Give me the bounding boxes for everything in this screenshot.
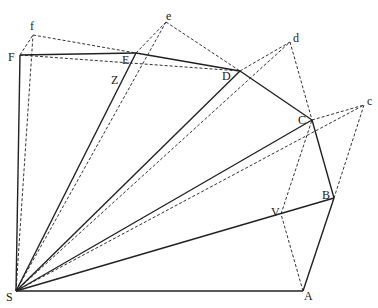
- dashed-segment-dC: [290, 42, 312, 120]
- solid-segment-BC: [312, 120, 334, 198]
- point-label-A: A: [304, 290, 313, 302]
- point-label-B: B: [322, 189, 330, 201]
- dashed-segment-AV: [281, 214, 303, 291]
- point-label-V: V: [271, 206, 280, 218]
- dashed-segment-eD: [166, 22, 240, 71]
- point-label-c: c: [367, 95, 372, 107]
- point-label-D: D: [222, 70, 231, 82]
- solid-segment-SE: [16, 53, 136, 291]
- point-label-d: d: [293, 32, 299, 44]
- solid-segment-AB: [303, 198, 334, 291]
- dashed-segment-fE: [33, 35, 136, 53]
- dashed-segment-Cc: [312, 105, 364, 120]
- dashed-segment-VC: [281, 120, 312, 214]
- point-label-f: f: [30, 20, 34, 32]
- dashed-segment-Sd: [16, 42, 290, 291]
- solid-segment-EF: [20, 53, 136, 55]
- point-label-E: E: [122, 54, 129, 66]
- dashed-segment-Dd: [240, 42, 290, 71]
- diagram-canvas: [0, 0, 378, 308]
- point-label-C: C: [298, 114, 306, 126]
- point-label-Z: Z: [111, 74, 118, 86]
- point-label-F: F: [8, 51, 15, 63]
- dashed-segment-Ff: [20, 35, 33, 55]
- point-label-S: S: [6, 291, 13, 303]
- geometry-diagram: SABVCcDdEeZFf: [0, 0, 378, 308]
- dashed-segment-FD: [20, 55, 240, 71]
- point-label-e: e: [166, 10, 171, 22]
